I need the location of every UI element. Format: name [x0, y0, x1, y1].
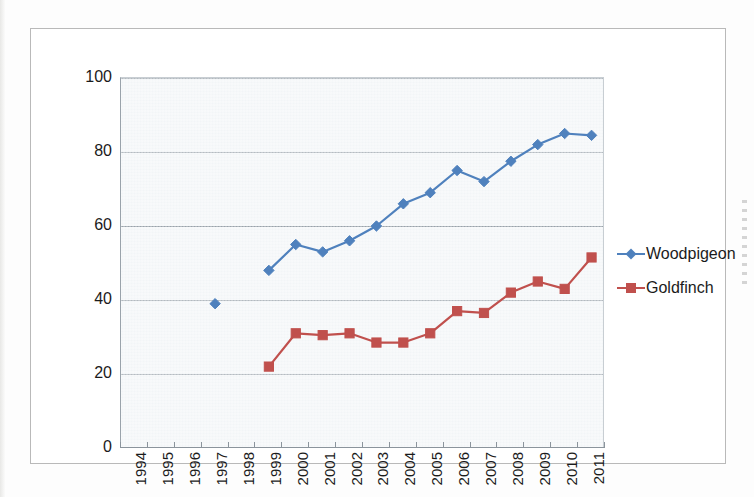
data-point — [426, 329, 435, 338]
plot-area — [120, 77, 604, 447]
x-axis-tick-label-text: 1994 — [133, 452, 148, 485]
data-point — [533, 139, 543, 149]
x-axis-tick-label-text: 2001 — [322, 452, 337, 485]
x-axis-tick-label-text: 2006 — [456, 452, 471, 485]
x-axis-tick-label-text: 1997 — [214, 452, 229, 485]
page-edge-shadow — [0, 0, 6, 497]
data-point — [453, 307, 462, 316]
x-axis-tick-label-text: 1996 — [187, 452, 202, 485]
data-point — [264, 362, 273, 371]
x-axis-tick-label-text: 1998 — [241, 452, 256, 485]
legend-label: Woodpigeon — [646, 245, 736, 263]
legend-item-woodpigeon[interactable]: Woodpigeon — [617, 237, 747, 271]
x-axis-tick-label-text: 2000 — [295, 452, 310, 485]
data-point — [533, 277, 542, 286]
data-point — [399, 338, 408, 347]
data-point — [479, 308, 488, 317]
data-point — [506, 288, 515, 297]
legend-item-goldfinch[interactable]: Goldfinch — [617, 271, 747, 305]
x-axis: 1994199519961997199819992000200120022003… — [120, 448, 605, 497]
x-axis-tick-label-text: 2003 — [375, 452, 390, 485]
data-point — [318, 331, 327, 340]
y-axis-tick-label: 100 — [56, 69, 112, 85]
x-axis-tick-label-text: 2007 — [483, 452, 498, 485]
data-point — [291, 329, 300, 338]
legend-label: Goldfinch — [646, 279, 714, 297]
series-goldfinch — [264, 253, 596, 371]
x-axis-tick-label-text: 2009 — [537, 452, 552, 485]
series-line — [269, 134, 592, 271]
data-point — [560, 284, 569, 293]
x-axis-tick-label-text: 2010 — [564, 452, 579, 485]
diamond-marker-icon — [617, 247, 645, 261]
x-axis-tick-label-text: 1995 — [160, 452, 175, 485]
scanned-page: 100806040200 199419951996199719981999200… — [0, 0, 754, 497]
x-axis-tick-label-text: 2008 — [510, 452, 525, 485]
x-axis-tick-label-text: 2011 — [591, 452, 606, 484]
series-line — [269, 257, 592, 366]
data-point — [586, 130, 596, 140]
x-axis-tick-label-text: 2005 — [429, 452, 444, 485]
square-marker-icon — [617, 281, 645, 295]
x-axis-tick-label-text: 1999 — [268, 452, 283, 485]
x-axis-tick-label-text: 2002 — [349, 452, 364, 485]
y-axis-tick-label: 80 — [56, 143, 112, 159]
data-point — [210, 299, 220, 309]
chart-legend: WoodpigeonGoldfinch — [617, 237, 747, 305]
data-point — [559, 128, 569, 138]
series-layer — [121, 78, 605, 448]
data-point — [587, 253, 596, 262]
data-point — [345, 329, 354, 338]
data-point — [372, 338, 381, 347]
y-axis-tick-label: 40 — [56, 291, 112, 307]
chart-frame: 100806040200 199419951996199719981999200… — [30, 28, 726, 464]
x-axis-tick-label-text: 2004 — [402, 452, 417, 485]
y-axis-tick-label: 20 — [56, 365, 112, 381]
y-axis-tick-label: 0 — [56, 439, 112, 455]
y-axis: 100806040200 — [38, 29, 112, 465]
scan-artifact — [742, 200, 747, 320]
y-axis-tick-label: 60 — [56, 217, 112, 233]
data-point — [344, 236, 354, 246]
data-point — [317, 247, 327, 257]
